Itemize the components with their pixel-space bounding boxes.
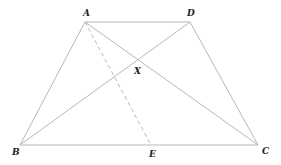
trapezoid-diagram: A D B C E X	[0, 0, 281, 165]
vertex-label-a: A	[82, 8, 90, 18]
segment-AB	[20, 22, 85, 145]
vertex-label-d: D	[186, 8, 195, 18]
point-label-e: E	[148, 149, 156, 159]
diagonal-BD	[20, 22, 190, 145]
vertex-label-c: C	[262, 146, 270, 156]
diagonal-AC	[85, 22, 258, 145]
intersection-label-x: X	[133, 66, 142, 76]
segment-DC	[190, 22, 258, 145]
vertex-label-b: B	[11, 147, 20, 157]
dashed-segment-AE	[85, 22, 151, 145]
